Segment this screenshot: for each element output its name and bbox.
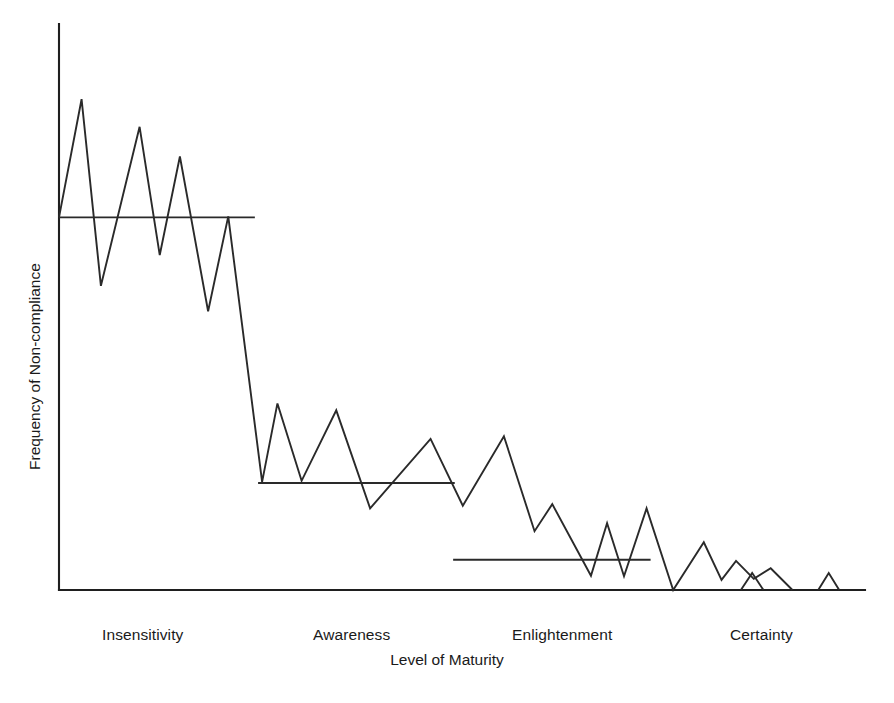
chart-figure: Insensitivity Awareness Enlightenment Ce…: [0, 0, 894, 703]
certainty-spike-2: [818, 573, 839, 590]
x-tick-label-certainty: Certainty: [730, 626, 793, 644]
x-axis-title: Level of Maturity: [0, 651, 894, 669]
y-axis-title: Frequency of Non-compliance: [26, 263, 44, 470]
mean-lines-group: [59, 217, 651, 559]
series-frequency-line: [59, 99, 792, 590]
x-tick-label-enlightenment: Enlightenment: [512, 626, 612, 644]
chart-plot-area: [0, 0, 894, 703]
x-tick-label-insensitivity: Insensitivity: [102, 626, 183, 644]
series-group: [59, 99, 839, 590]
x-tick-label-awareness: Awareness: [313, 626, 390, 644]
